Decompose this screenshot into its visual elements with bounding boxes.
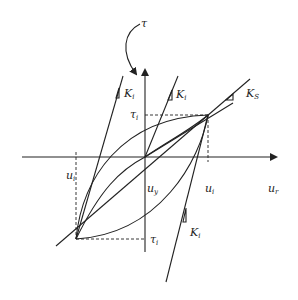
inner-curve-left — [76, 157, 145, 239]
tau-i-bottom-label: τi — [150, 233, 158, 247]
ki-slope-triangle-mid — [168, 90, 172, 100]
ki-label-left: Ki — [123, 87, 134, 101]
ks-label: KS — [245, 87, 259, 101]
ur-axis-label: ur — [268, 182, 279, 196]
hysteresis-diagram: τ Ki Ki KS Ki τi τi ui uy ui ur — [0, 0, 298, 300]
loop-upper-curve — [76, 115, 208, 239]
tau-i-top-label: τi — [130, 108, 138, 122]
tau-pointer-arrow — [126, 24, 140, 74]
ki-label-bottom: Ki — [189, 226, 200, 240]
ui-left-label: ui — [66, 169, 75, 183]
uy-origin-label: uy — [147, 182, 159, 196]
ks-slope-triangle — [226, 94, 233, 100]
ui-right-label: ui — [205, 182, 214, 196]
tau-title-label: τ — [141, 17, 148, 30]
ki-label-mid: Ki — [175, 88, 186, 102]
